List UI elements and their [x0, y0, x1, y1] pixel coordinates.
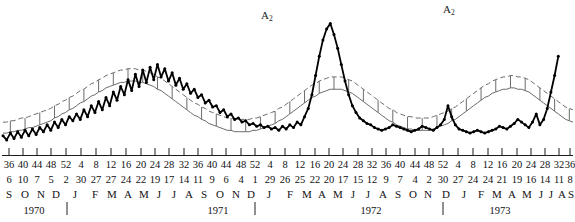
month-label-28: J — [462, 187, 466, 202]
week-label-17: 52 — [250, 157, 261, 172]
month-label-6: M — [107, 187, 117, 202]
month-label-26: N — [424, 187, 432, 202]
day-label-35: 19 — [512, 172, 523, 187]
day-label-30: 30 — [438, 172, 449, 187]
month-label-16: J — [267, 187, 271, 202]
day-label-25: 12 — [367, 172, 378, 187]
week-label-3: 48 — [46, 157, 57, 172]
week-label-5: 4 — [78, 157, 83, 172]
day-label-39: 8 — [567, 172, 572, 187]
day-label-31: 27 — [453, 172, 464, 187]
axis-row-day-of-month: 6107523027272422191714119641292625222017… — [0, 172, 575, 187]
day-label-13: 11 — [193, 172, 203, 187]
month-label-23: A — [379, 187, 387, 202]
day-label-28: 4 — [412, 172, 417, 187]
month-label-13: O — [216, 187, 224, 202]
week-label-0: 36 — [4, 157, 15, 172]
week-label-22: 20 — [324, 157, 335, 172]
day-label-5: 30 — [76, 172, 87, 187]
month-label-2: N — [37, 187, 45, 202]
week-label-32: 8 — [470, 157, 475, 172]
day-label-20: 25 — [295, 172, 306, 187]
week-label-36: 24 — [526, 157, 537, 172]
week-label-34: 16 — [497, 157, 508, 172]
x-axis-label-rows: 3640444852481216202428323640444852481216… — [0, 157, 575, 222]
week-label-21: 16 — [310, 157, 321, 172]
day-label-27: 7 — [397, 172, 402, 187]
month-label-35: A — [558, 187, 566, 202]
month-label-31: A — [508, 187, 516, 202]
day-label-15: 6 — [223, 172, 228, 187]
week-label-12: 32 — [179, 157, 190, 172]
month-label-12: S — [201, 187, 207, 202]
x-axis-ticks — [9, 148, 570, 155]
observed-series-group — [2, 22, 560, 141]
axis-row-year: 1970197119721973 — [0, 202, 575, 220]
month-label-11: A — [185, 187, 193, 202]
week-label-14: 40 — [207, 157, 218, 172]
day-label-38: 11 — [554, 172, 564, 187]
month-label-34: J — [549, 187, 553, 202]
day-label-23: 17 — [338, 172, 349, 187]
day-label-6: 27 — [91, 172, 102, 187]
week-label-27: 40 — [395, 157, 406, 172]
week-label-30: 52 — [438, 157, 449, 172]
day-label-11: 17 — [164, 172, 175, 187]
year-label-2: 1972 — [361, 202, 382, 220]
day-label-14: 9 — [209, 172, 214, 187]
day-label-12: 14 — [179, 172, 190, 187]
day-label-16: 4 — [238, 172, 243, 187]
week-label-1: 40 — [18, 157, 29, 172]
week-label-10: 24 — [150, 157, 161, 172]
month-label-18: M — [302, 187, 312, 202]
week-label-33: 12 — [483, 157, 494, 172]
day-label-21: 22 — [310, 172, 321, 187]
month-label-9: J — [157, 187, 161, 202]
week-label-24: 28 — [353, 157, 364, 172]
month-label-25: O — [409, 187, 417, 202]
week-label-31: 4 — [455, 157, 460, 172]
month-label-5: F — [92, 187, 98, 202]
month-label-32: M — [522, 187, 532, 202]
month-label-0: S — [6, 187, 12, 202]
day-label-29: 2 — [426, 172, 431, 187]
month-label-19: A — [318, 187, 326, 202]
week-label-2: 44 — [32, 157, 43, 172]
month-label-7: A — [124, 187, 132, 202]
day-label-32: 24 — [468, 172, 479, 187]
week-label-28: 44 — [410, 157, 421, 172]
day-label-10: 19 — [150, 172, 161, 187]
day-label-0: 6 — [6, 172, 11, 187]
day-label-17: 1 — [252, 172, 257, 187]
a2-label-subscript: 2 — [451, 8, 455, 17]
month-label-14: N — [232, 187, 240, 202]
day-label-2: 7 — [34, 172, 39, 187]
week-label-26: 36 — [381, 157, 392, 172]
month-label-1: O — [21, 187, 29, 202]
week-label-9: 20 — [136, 157, 147, 172]
day-label-33: 24 — [483, 172, 494, 187]
year-label-3: 1973 — [490, 202, 511, 220]
month-label-29: F — [478, 187, 484, 202]
day-label-19: 26 — [280, 172, 291, 187]
day-label-8: 24 — [121, 172, 132, 187]
month-label-4: J — [73, 187, 77, 202]
month-label-17: F — [287, 187, 293, 202]
day-label-9: 22 — [136, 172, 147, 187]
month-label-3: D — [52, 187, 60, 202]
day-label-3: 5 — [48, 172, 53, 187]
week-label-20: 12 — [295, 157, 306, 172]
a2-label-letter: A — [443, 3, 451, 15]
week-label-35: 20 — [512, 157, 523, 172]
month-label-27: D — [442, 187, 450, 202]
axis-row-month-letter: SONDJFMAMJJASONDJFMAMJJASONDJFMAMJJAS — [0, 187, 575, 202]
week-label-39: 36 — [565, 157, 575, 172]
month-label-20: M — [333, 187, 343, 202]
year-label-1: 1971 — [208, 202, 229, 220]
day-label-18: 29 — [265, 172, 276, 187]
week-label-18: 4 — [267, 157, 272, 172]
figure-weekly-surveillance-chart: A2 A2 3640444852481216202428323640444852… — [0, 0, 575, 222]
expected-band-group — [3, 69, 573, 133]
month-label-8: M — [139, 187, 149, 202]
a2-label-subscript: 2 — [269, 14, 273, 23]
